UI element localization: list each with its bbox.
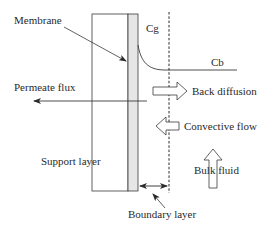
membrane-concentration-polarization-diagram: Membrane Cg Cb Permeate flux Back diffus…	[0, 0, 269, 233]
convective-flow-label: Convective flow	[184, 120, 257, 132]
cg-label: Cg	[146, 22, 159, 34]
boundary-layer-label: Boundary layer	[128, 208, 196, 220]
membrane-strip	[128, 14, 138, 191]
bulk-fluid-label: Bulk fluid	[194, 164, 239, 176]
membrane-label: Membrane	[14, 14, 62, 26]
support-layer-label: Support layer	[41, 155, 101, 167]
back-diffusion-label: Back diffusion	[192, 85, 257, 97]
cb-label: Cb	[211, 56, 224, 68]
back-diffusion-arrow-icon	[153, 82, 187, 100]
convective-flow-arrow-icon	[156, 117, 179, 135]
permeate-flux-label: Permeate flux	[14, 81, 76, 93]
boundary-layer-pointer-arrow	[153, 194, 165, 208]
